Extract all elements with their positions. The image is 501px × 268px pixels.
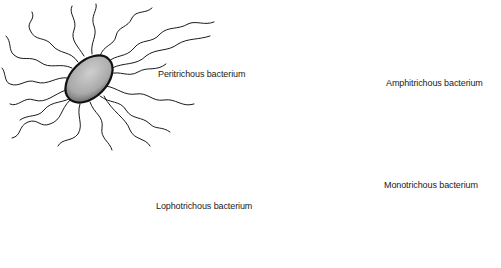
label-peritrichous: Peritrichous bacterium	[158, 69, 245, 79]
label-monotrichous: Monotrichous bacterium	[384, 180, 478, 190]
diagram-drawing	[0, 0, 501, 268]
label-lophotrichous: Lophotrichous bacterium	[156, 201, 252, 211]
flagella-arrangement-diagram: Peritrichous bacterium Amphitrichous bac…	[0, 0, 501, 268]
label-amphitrichous: Amphitrichous bacterium	[386, 78, 483, 88]
